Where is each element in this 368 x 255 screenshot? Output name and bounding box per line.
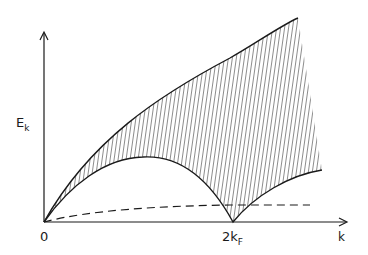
x-tick-label-2kf: 2kF — [222, 230, 243, 243]
y-label-main: E — [16, 115, 24, 130]
y-axis — [40, 32, 48, 222]
continuum-plot — [0, 0, 368, 255]
origin-label: 0 — [40, 230, 48, 243]
x-axis — [44, 218, 347, 226]
dashed-mode-curve — [44, 205, 310, 222]
y-label-subscript: k — [24, 123, 29, 133]
x-axis-label: k — [338, 231, 345, 243]
x-tick-subscript: F — [238, 237, 243, 247]
y-axis-label: Ek — [16, 116, 29, 129]
diagram-canvas: Ek 0 2kF k — [0, 0, 368, 255]
x-tick-main: 2k — [222, 229, 238, 244]
hatched-continuum-region — [40, 10, 330, 225]
